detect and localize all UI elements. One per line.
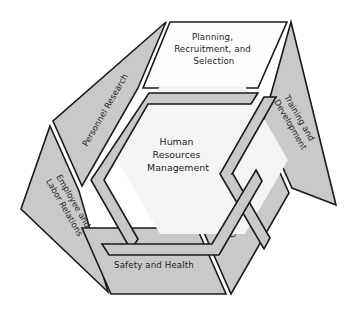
panel-planning-recruitment-selection[interactable]: Planning, Recruitment, and Selection [143,22,287,88]
hr-management-diagram: Planning, Recruitment, and Selection Per… [0,0,357,315]
panel-safety-and-health-label: Safety and Health [114,260,194,270]
diagram-canvas: Planning, Recruitment, and Selection Per… [0,0,357,315]
